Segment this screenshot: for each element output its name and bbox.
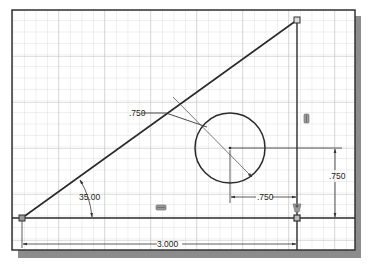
endpoint-top-right[interactable] [294,17,300,23]
base-length-label[interactable]: 3.000 [157,239,179,249]
sketch-canvas[interactable]: .750 .750 .750 35.00 3.000 [0,0,371,273]
sketch-svg[interactable]: .750 .750 .750 35.00 3.000 [0,0,371,273]
angle-dimension-label[interactable]: 35.00 [79,192,101,202]
endpoint-bottom-left[interactable] [19,215,25,221]
endpoint-bottom-right[interactable] [294,215,300,221]
diameter-dimension-label[interactable]: .750 [129,108,146,118]
vertical-constraint-icon[interactable] [304,114,309,123]
horizontal-constraint-icon[interactable] [156,205,166,210]
grid [12,10,355,250]
vertical-offset-label[interactable]: .750 [329,171,346,181]
horizontal-offset-label[interactable]: .750 [257,192,274,202]
